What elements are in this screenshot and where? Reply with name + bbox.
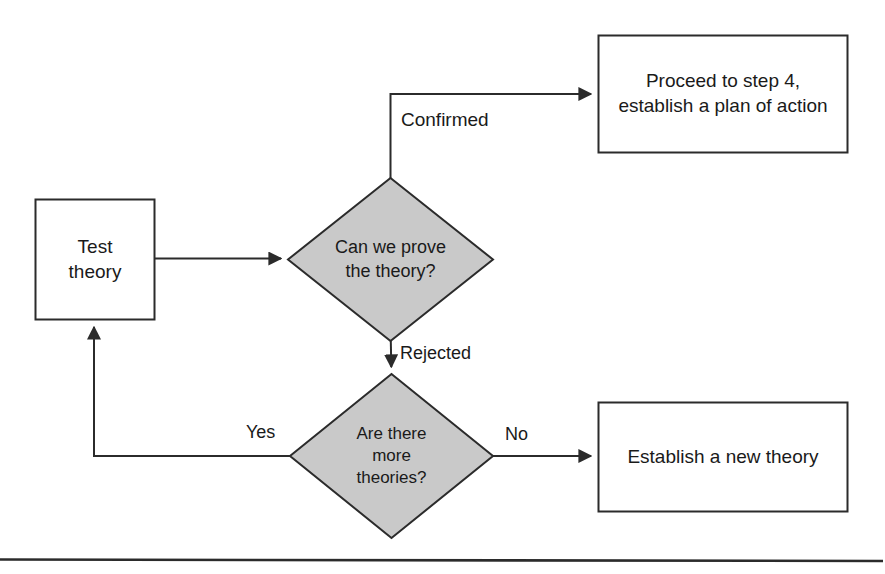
footer-divider-rule <box>0 560 883 562</box>
flowchart-canvas <box>0 0 885 574</box>
edge-confirmed <box>391 94 592 178</box>
figure-caption <box>0 564 885 574</box>
node-establish-new-theory-shape <box>599 403 848 512</box>
edge-label-no: No <box>505 424 528 445</box>
node-can-we-prove-shape <box>288 178 493 341</box>
edge-label-confirmed: Confirmed <box>401 109 489 131</box>
node-proceed-step4-shape <box>599 36 848 153</box>
node-are-there-more-shape <box>290 374 493 538</box>
node-test-theory-shape <box>36 200 155 320</box>
edge-rejected <box>391 341 392 367</box>
edge-label-rejected: Rejected <box>400 343 471 364</box>
flowchart-figure: Test theory Can we prove the theory? Are… <box>0 0 885 574</box>
edge-label-yes: Yes <box>246 422 275 443</box>
